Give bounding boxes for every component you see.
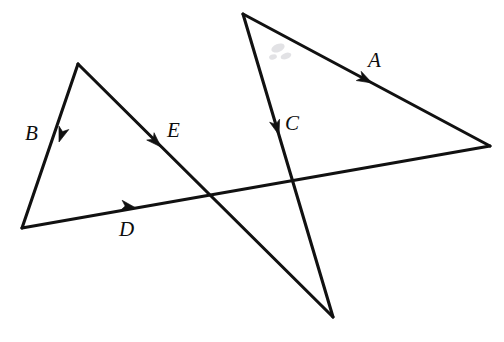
vector-diagram-canvas <box>0 0 504 342</box>
vector-d <box>22 146 490 228</box>
vector-label-c: C <box>285 113 299 134</box>
vector-label-a: A <box>368 50 381 71</box>
scan-smudge-artifact <box>268 42 292 61</box>
vector-diagram-figure: A B C D E <box>0 0 504 342</box>
vector-c-arrowhead <box>270 119 284 136</box>
vector-label-d: D <box>119 219 134 240</box>
vector-a <box>243 14 490 146</box>
vector-b-line <box>22 64 78 228</box>
vector-label-e: E <box>167 120 180 141</box>
vector-b <box>22 64 78 228</box>
vector-d-line <box>22 146 490 228</box>
vector-label-b: B <box>25 123 38 144</box>
vector-a-arrowhead <box>356 71 374 87</box>
